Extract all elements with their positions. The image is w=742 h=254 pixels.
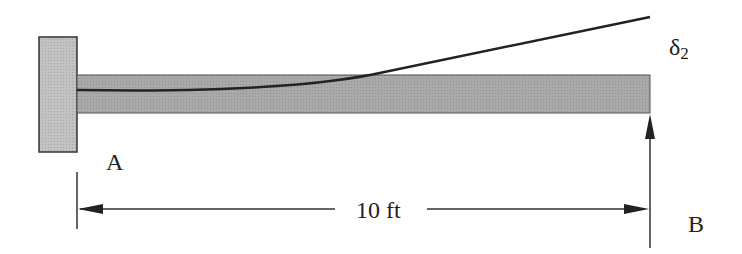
beam — [77, 75, 650, 113]
delta-symbol: δ — [669, 34, 680, 60]
label-deflection: δ2 — [669, 34, 689, 63]
label-a: A — [106, 149, 124, 175]
dimension-arrowhead-right — [624, 204, 649, 214]
delta-subscript: 2 — [680, 44, 689, 63]
dimension-arrowhead-left — [78, 204, 103, 214]
cantilever-beam-diagram: A 10 ft B δ2 — [0, 0, 742, 254]
label-span: 10 ft — [356, 197, 401, 223]
reaction-arrowhead — [645, 114, 655, 139]
label-b: B — [688, 211, 704, 237]
fixed-wall-support — [39, 37, 77, 152]
